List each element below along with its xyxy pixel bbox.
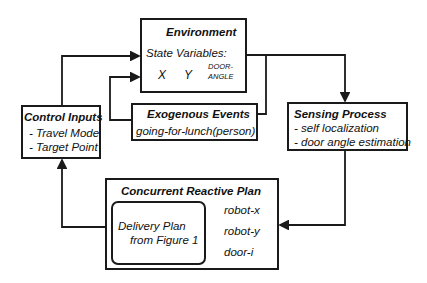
control-item-travel-mode: - Travel Mode <box>29 127 99 139</box>
state-variables-label: State Variables: <box>146 47 227 59</box>
control-inputs-box: Control Inputs - Travel Mode - Target Po… <box>21 105 101 159</box>
state-var-door: DOOR- <box>208 62 233 71</box>
sensing-item-self-localization: - self localization <box>294 122 379 134</box>
plan-var-robot-y: robot-y <box>224 225 260 237</box>
environment-title: Environment <box>166 26 236 38</box>
state-var-y: Y <box>184 68 192 82</box>
environment-box: Environment State Variables: X Y DOOR- A… <box>140 18 247 93</box>
sensing-process-title: Sensing Process <box>294 108 387 120</box>
exogenous-events-title: Exogenous Events <box>147 108 250 120</box>
concurrent-reactive-plan-box: Concurrent Reactive Plan Delivery Plan f… <box>105 178 279 270</box>
concurrent-reactive-plan-title: Concurrent Reactive Plan <box>121 185 261 197</box>
sensing-process-box: Sensing Process - self localization - do… <box>287 102 408 151</box>
state-var-angle: ANGLE <box>208 72 233 81</box>
plan-var-door-i: door-i <box>224 246 253 258</box>
exogenous-events-box: Exogenous Events going-for-lunch(person) <box>131 103 258 141</box>
state-var-x: X <box>158 68 166 82</box>
delivery-plan-line1: Delivery Plan <box>118 220 186 232</box>
sensing-item-door-angle: - door angle estimation <box>294 136 411 148</box>
delivery-plan-line2: from Figure 1 <box>130 234 198 246</box>
control-item-target-point: - Target Point <box>29 141 98 153</box>
control-inputs-title: Control Inputs <box>24 111 103 123</box>
plan-var-robot-x: robot-x <box>224 204 260 216</box>
delivery-plan-box: Delivery Plan from Figure 1 <box>111 201 206 265</box>
exogenous-event-item: going-for-lunch(person) <box>136 125 255 137</box>
